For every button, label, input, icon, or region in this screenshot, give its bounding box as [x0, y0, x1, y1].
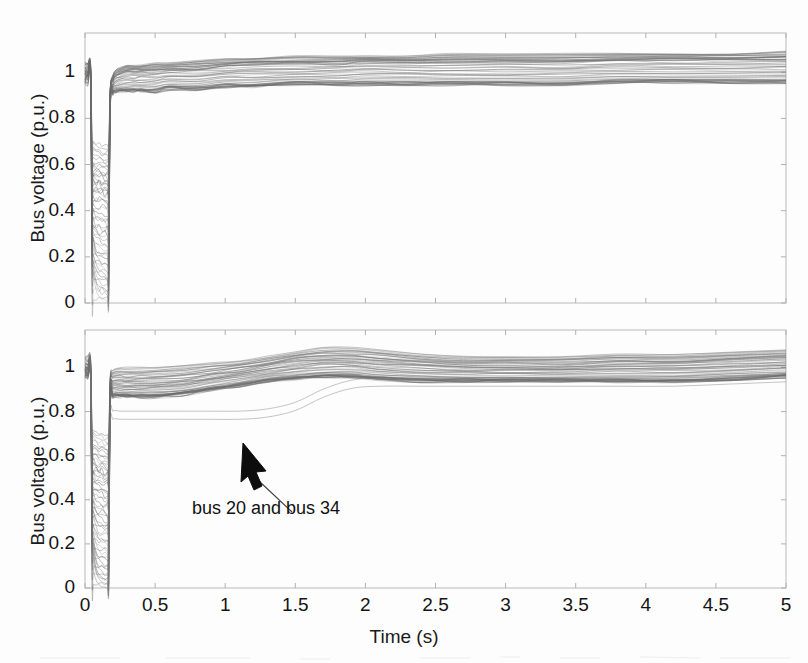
bottom-plot-ytick-label: 1	[23, 355, 75, 377]
bus-voltage-trace-faulted	[85, 67, 786, 248]
bottom-plot-xtick-label: 1	[200, 594, 250, 616]
bottom-plot-xtick-label: 4	[621, 594, 671, 616]
bus-voltage-trace	[85, 66, 786, 302]
bus-voltage-trace	[85, 361, 786, 525]
bottom-plot-xtick-label: 2	[340, 594, 390, 616]
top-plot-ytick-label: 0.6	[23, 153, 75, 175]
bus-voltage-trace-faulted	[85, 66, 786, 256]
annotation-label: bus 20 and bus 34	[192, 498, 340, 519]
bottom-plot-xtick-label: 3.5	[551, 594, 601, 616]
bottom-plot-panel: Bus voltage (p.u.) bus 20 and bus 34 00.…	[0, 320, 808, 663]
top-plot-ytick-label: 0.2	[23, 245, 75, 267]
bus-voltage-trace-faulted	[85, 62, 786, 317]
bus-voltage-trace	[85, 65, 786, 263]
bus-voltage-trace	[85, 64, 786, 259]
bottom-plot-xtick-label: 1.5	[270, 594, 320, 616]
figure-page: Bus voltage (p.u.) 00.20.40.60.81 Bus vo…	[0, 0, 808, 663]
bus-voltage-trace-faulted	[85, 357, 786, 563]
bus-voltage-trace-faulted	[85, 60, 786, 293]
bus-voltage-trace	[85, 364, 786, 575]
bottom-plot-ytick-label: 0.2	[23, 532, 75, 554]
bus-voltage-trace	[85, 366, 786, 591]
bus-voltage-trace	[85, 366, 786, 579]
top-plot-ytick-label: 0.4	[23, 199, 75, 221]
top-plot-ytick-label: 1	[23, 60, 75, 82]
top-plot-ytick-label: 0	[23, 291, 75, 313]
bus-voltage-trace	[85, 66, 786, 278]
bus-voltage-trace	[85, 68, 786, 291]
bus-voltage-trace	[85, 66, 786, 267]
bus-voltage-trace-faulted	[85, 60, 786, 286]
bottom-plot-ytick-label: 0.4	[23, 488, 75, 510]
bus-voltage-trace	[85, 364, 786, 565]
bus-voltage-trace-faulted	[85, 361, 786, 590]
bus-voltage-trace	[85, 367, 786, 596]
bus-voltage-trace-faulted	[85, 68, 786, 239]
bus-voltage-trace-faulted	[85, 67, 786, 305]
bottom-plot-xtick-label: 4.5	[691, 594, 741, 616]
bus-voltage-trace	[85, 366, 786, 586]
scan-artifact-footer	[0, 649, 808, 663]
bus-voltage-trace	[85, 69, 786, 312]
bottom-plot-xtick-label: 2.5	[411, 594, 461, 616]
top-plot-ytick-label: 0.8	[23, 106, 75, 128]
bottom-plot-ytick-label: 0.6	[23, 444, 75, 466]
bus-voltage-trace	[85, 58, 786, 195]
bottom-plot-xtick-label: 0.5	[130, 594, 180, 616]
bus-voltage-trace	[85, 66, 786, 254]
top-plot-panel: Bus voltage (p.u.) 00.20.40.60.81	[0, 0, 808, 320]
bottom-plot-xtick-label: 5	[761, 594, 808, 616]
bus-voltage-trace	[85, 68, 786, 307]
top-plot-canvas	[0, 0, 808, 320]
bus-voltage-trace	[85, 365, 786, 569]
bus-voltage-trace-highlighted	[85, 367, 786, 599]
bus-voltage-trace-faulted	[85, 66, 786, 267]
bottom-plot-canvas	[0, 320, 808, 663]
bottom-plot-xtick-label: 0	[60, 594, 110, 616]
bottom-plot-ytick-label: 0.8	[23, 400, 75, 422]
bus-voltage-trace-faulted	[85, 61, 786, 278]
bottom-plot-xtick-label: 3	[481, 594, 531, 616]
bus-voltage-trace	[85, 68, 786, 295]
bus-voltage-trace	[85, 350, 786, 447]
bus-voltage-trace	[85, 67, 786, 282]
bottom-plot-xlabel: Time (s)	[0, 626, 808, 648]
bus-voltage-trace	[85, 66, 786, 285]
